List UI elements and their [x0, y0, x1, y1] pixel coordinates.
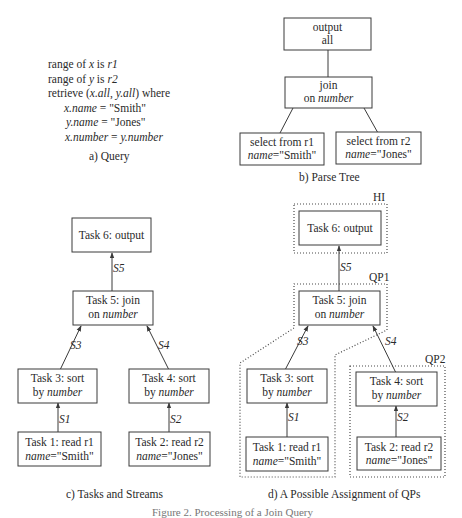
edge-join-select1 [280, 108, 293, 133]
svg-text:Task 3: sort: Task 3: sort [31, 372, 85, 384]
svg-text:Task 2: read r2: Task 2: read r2 [365, 441, 434, 453]
task-4-sort: Task 4: sort by number [356, 372, 437, 406]
svg-text:Task 1: read r1: Task 1: read r1 [25, 436, 94, 448]
svg-text:Task 6: output: Task 6: output [79, 229, 145, 242]
node-output: output all [284, 18, 371, 50]
svg-text:Task 5: join: Task 5: join [312, 294, 366, 307]
node-select-r1: select from r1 name="Smith" [240, 133, 324, 165]
stream-label-s3: S3 [297, 335, 309, 347]
svg-text:name="Smith": name="Smith" [253, 455, 321, 467]
stream-arrow-s4 [373, 326, 396, 373]
svg-text:by number: by number [33, 386, 83, 399]
node-join: join on number [285, 77, 372, 108]
svg-text:Task 1: read r1: Task 1: read r1 [253, 441, 322, 453]
task-5-join: Task 5: join on number [73, 291, 153, 325]
svg-text:all: all [322, 34, 334, 46]
task-2-read: Task 2: read r2 name="Jones" [357, 437, 441, 470]
task-1-read: Task 1: read r1 name="Smith" [246, 437, 328, 471]
svg-text:name="Jones": name="Jones" [136, 450, 202, 462]
svg-text:name="Jones": name="Jones" [366, 454, 432, 466]
svg-text:by number: by number [144, 386, 194, 399]
svg-text:name="Smith": name="Smith" [25, 450, 93, 462]
figure-caption: Figure 2. Processing of a Join Query [152, 506, 313, 518]
tasks-and-streams: S5 S3 S4 S1 S2 Task 6: output Task 5: jo… [18, 218, 210, 501]
parse-tree: output all join on number select from r1… [240, 18, 421, 184]
qp-assignment: HI QP1 QP2 S5 S3 S4 S1 S2 Task 6: output… [240, 191, 446, 501]
task-3-sort: Task 3: sort by number [18, 369, 97, 403]
stream-label-s1: S1 [288, 411, 300, 423]
task-5-join: Task 5: join on number [299, 291, 380, 325]
svg-text:on number: on number [304, 92, 354, 104]
group-label-qp1: QP1 [369, 271, 390, 283]
svg-text:Task 3: sort: Task 3: sort [260, 372, 314, 384]
edge-join-select2 [364, 108, 378, 133]
svg-text:Task 2: read r2: Task 2: read r2 [135, 436, 204, 448]
group-label-qp2: QP2 [425, 353, 446, 365]
svg-text:Task 4: sort: Task 4: sort [370, 375, 424, 387]
stream-label-s5: S5 [340, 261, 352, 273]
caption-parse-tree: b) Parse Tree [299, 171, 360, 184]
svg-text:by number: by number [372, 389, 422, 402]
task-3-sort: Task 3: sort by number [247, 369, 327, 403]
svg-text:select from r1: select from r1 [250, 136, 314, 148]
svg-text:output: output [313, 21, 343, 34]
task-6-output: Task 6: output [72, 218, 151, 252]
svg-text:Task 5: join: Task 5: join [86, 294, 140, 307]
stream-label-s1: S1 [59, 413, 71, 425]
stream-label-s2: S2 [397, 411, 409, 423]
stream-label-s4: S4 [158, 339, 170, 351]
svg-text:on number: on number [88, 308, 138, 320]
task-1-read: Task 1: read r1 name="Smith" [18, 432, 101, 466]
stream-label-s4: S4 [385, 335, 397, 347]
stream-label-s5: S5 [113, 262, 125, 274]
group-label-hi: HI [373, 191, 385, 203]
svg-text:join: join [319, 79, 338, 92]
stream-label-s2: S2 [170, 413, 182, 425]
svg-text:Task 4: sort: Task 4: sort [142, 372, 196, 384]
stream-label-s3: S3 [70, 339, 82, 351]
svg-text:Task 6: output: Task 6: output [307, 222, 373, 235]
node-select-r2: select from r2 name="Jones" [336, 132, 421, 164]
task-6-output: Task 6: output [299, 211, 381, 245]
svg-text:name="Smith": name="Smith" [248, 149, 316, 161]
task-2-read: Task 2: read r2 name="Jones" [129, 432, 210, 466]
stream-arrow-s3 [285, 326, 308, 370]
svg-text:name="Jones": name="Jones" [345, 148, 411, 160]
caption-tasks-streams: c) Tasks and Streams [66, 488, 164, 501]
svg-text:on number: on number [315, 308, 365, 320]
svg-text:select from r2: select from r2 [347, 135, 411, 147]
svg-text:by number: by number [262, 386, 312, 399]
task-4-sort: Task 4: sort by number [129, 369, 209, 403]
caption-qp-assignment: d) A Possible Assignment of QPs [268, 488, 421, 501]
